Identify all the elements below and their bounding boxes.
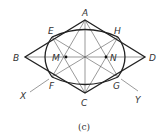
label-c: C [81,98,88,108]
construction-lines [25,20,145,93]
label-n: N [110,53,117,63]
label-h: H [114,26,121,36]
ellipse-construction-diagram: A B C D E H F G M N X Y (c) [0,0,163,136]
label-a: A [81,8,88,18]
center-point-m [65,56,68,59]
label-b: B [13,53,19,63]
label-g: G [113,81,120,91]
line-y [121,79,138,91]
label-x: X [19,91,27,101]
center-point-n [105,56,108,59]
label-f: F [49,81,55,91]
label-e: E [48,26,54,36]
figure-caption: (c) [78,122,90,132]
line-a-f [52,20,85,77]
line-x [30,79,49,92]
label-d: D [149,53,156,63]
label-m: M [52,53,60,63]
label-y: Y [135,95,142,105]
